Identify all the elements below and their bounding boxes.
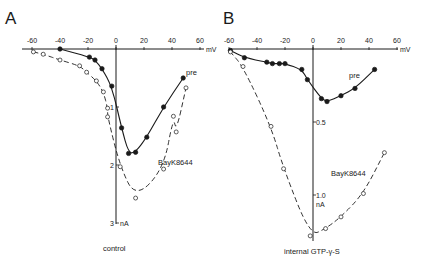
- panel-b-bayk-label: BayK8644: [331, 169, 366, 178]
- bayk-data-point: [85, 70, 89, 74]
- pre-data-point: [277, 61, 281, 65]
- bayk-data-point: [241, 65, 245, 69]
- x-tick-label: -60: [224, 37, 234, 44]
- panel-b-pre-label: pre: [349, 71, 360, 80]
- bayk-data-point: [171, 114, 175, 118]
- pre-data-point: [353, 86, 357, 90]
- bayk-data-point: [308, 234, 312, 238]
- x-tick-label: 0: [311, 37, 315, 44]
- x-tick-label: 60: [393, 37, 401, 44]
- bayk-data-point: [41, 52, 45, 56]
- pre-data-point: [87, 55, 91, 59]
- x-tick-label: -60: [27, 37, 37, 44]
- pre-data-point: [161, 105, 165, 109]
- bayk-data-point: [339, 215, 343, 219]
- panel-a: A -60-40-200204060mV123nA pre BayK8644 c…: [5, 9, 217, 253]
- x-tick-label: 0: [114, 37, 118, 44]
- bayk-data-point: [382, 151, 386, 155]
- bayk-data-point: [134, 196, 138, 200]
- panel-a-pre-label: pre: [186, 68, 197, 77]
- x-tick-label: 20: [140, 37, 148, 44]
- bayk-data-point: [31, 50, 35, 54]
- pre-data-point: [319, 96, 323, 100]
- pre-data-point: [242, 56, 246, 60]
- x-tick-label: 60: [196, 37, 204, 44]
- panel-a-letter: A: [5, 9, 17, 28]
- pre-data-point: [270, 61, 274, 65]
- bayk-data-point: [58, 58, 62, 62]
- bayk-data-point: [101, 90, 105, 94]
- y-tick-label: 3: [110, 220, 114, 227]
- x-tick-label: -20: [280, 37, 290, 44]
- pre-data-point: [300, 67, 304, 71]
- pre-data-point: [145, 135, 149, 139]
- x-tick-label: 20: [337, 37, 345, 44]
- panel-b-letter: B: [223, 9, 234, 28]
- y-unit-label: nA: [120, 220, 129, 227]
- pre-data-point: [93, 58, 97, 62]
- panel-b: B -60-40-200204060mV0.51.0nA pre BayK864…: [223, 9, 411, 256]
- bayk-data-point: [78, 64, 82, 68]
- panel-b-plot-area: [228, 48, 386, 238]
- pre-data-point: [372, 67, 376, 71]
- bayk-data-point: [228, 50, 232, 54]
- bayk-data-point: [361, 192, 365, 196]
- bayk-data-point: [118, 165, 122, 169]
- x-tick-label: -40: [252, 37, 262, 44]
- pre-data-point: [100, 67, 104, 71]
- x-unit-label: mV: [206, 46, 217, 53]
- bayk-data-point: [324, 227, 328, 231]
- panel-b-axes: -60-40-200204060mV0.51.0nA: [224, 37, 411, 241]
- bayk-data-point: [106, 115, 110, 119]
- y-tick-label: 0.5: [316, 119, 326, 126]
- pre-data-point: [265, 60, 269, 64]
- bayk-data-point: [269, 124, 273, 128]
- panel-a-condition-label: control: [103, 244, 126, 253]
- x-tick-label: 40: [168, 37, 176, 44]
- bayk-data-point: [174, 130, 178, 134]
- panel-a-axes: -60-40-200204060mV123nA: [22, 37, 217, 227]
- x-tick-label: 40: [365, 37, 373, 44]
- pre-data-point: [119, 126, 123, 130]
- pre-data-point: [325, 99, 329, 103]
- x-tick-label: -20: [83, 37, 93, 44]
- figure: A -60-40-200204060mV123nA pre BayK8644 c…: [0, 0, 427, 271]
- panel-a-plot-area: [31, 47, 188, 200]
- y-tick-label: 1.0: [316, 192, 326, 199]
- pre-data-point: [339, 94, 343, 98]
- bayk-data-point: [282, 167, 286, 171]
- pre-data-point: [305, 77, 309, 81]
- x-unit-label: mV: [400, 46, 411, 53]
- panel-a-bayk-label: BayK8644: [158, 158, 193, 167]
- pre-data-point: [181, 76, 185, 80]
- panel-b-condition-label: internal GTP-γ-S: [284, 247, 340, 256]
- x-tick-label: -40: [55, 37, 65, 44]
- y-tick-label: 2: [110, 162, 114, 169]
- pre-data-point: [133, 150, 137, 154]
- pre-data-point: [110, 84, 114, 88]
- bayk-data-point: [94, 79, 98, 83]
- pre-data-point: [58, 47, 62, 51]
- bayk-data-point: [184, 86, 188, 90]
- y-unit-label: nA: [316, 201, 325, 208]
- bayk-data-point: [106, 106, 110, 110]
- bayk-data-point: [162, 167, 166, 171]
- y-tick-label: 1: [110, 104, 114, 111]
- pre-data-point: [283, 61, 287, 65]
- pre-data-point: [126, 151, 130, 155]
